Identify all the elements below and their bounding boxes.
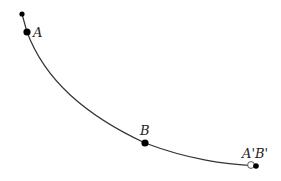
label-a-prime-b-prime: A'B' (241, 146, 268, 161)
trajectory-curve (22, 14, 256, 166)
trajectory-diagram: A B A'B' (0, 0, 281, 181)
point-b-prime (253, 163, 259, 169)
start-point (19, 11, 24, 16)
label-a: A (32, 25, 42, 40)
label-b: B (139, 123, 150, 138)
point-b (141, 139, 148, 146)
point-a-prime-hollow (248, 162, 255, 169)
point-a (23, 28, 30, 35)
